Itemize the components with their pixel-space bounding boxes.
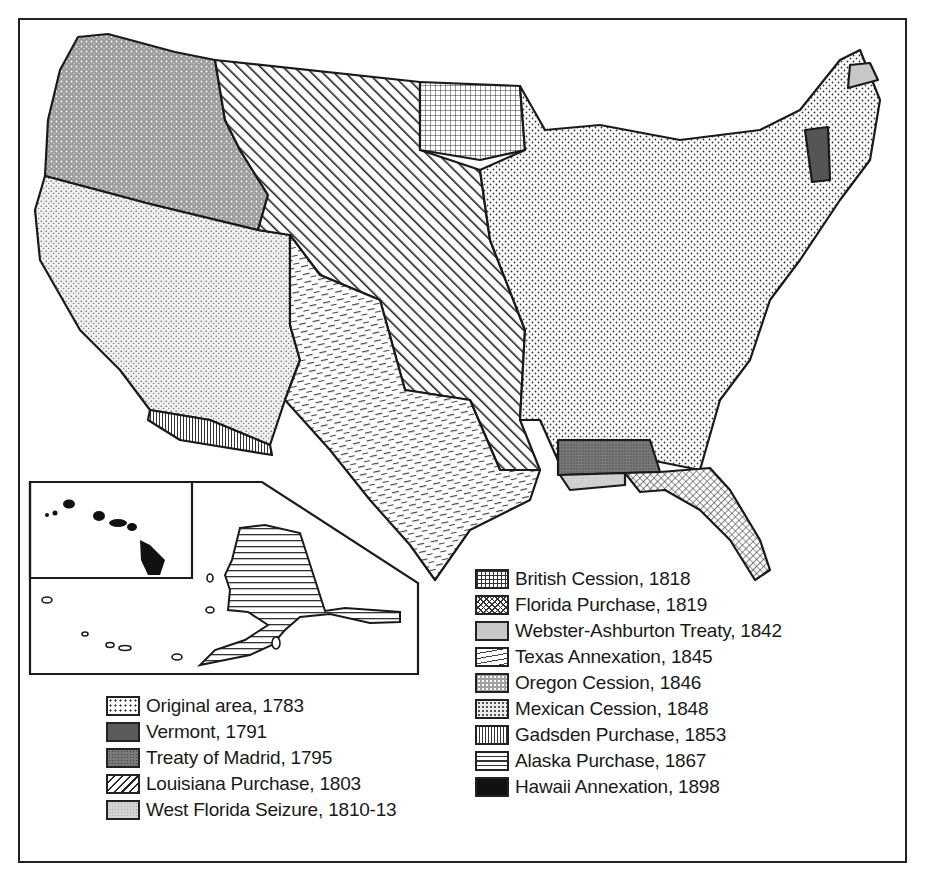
legend-item-treaty-of-madrid: Treaty of Madrid, 1795 xyxy=(106,745,396,771)
legend-item-alaska-purchase: Alaska Purchase, 1867 xyxy=(475,748,782,774)
legend-item-british-cession: British Cession, 1818 xyxy=(475,566,782,592)
hawaii-annexation-swatch-icon xyxy=(475,777,509,797)
vermont-swatch-icon xyxy=(106,722,140,742)
legend-left: Original area, 1783 Vermont, 1791 Treaty… xyxy=(106,693,396,823)
legend-item-florida-purchase: Florida Purchase, 1819 xyxy=(475,592,782,618)
louisiana-purchase-swatch-icon xyxy=(106,774,140,794)
british-cession-swatch-icon xyxy=(475,569,509,589)
alaska-purchase-swatch-icon xyxy=(475,751,509,771)
legend-item-webster-ashburton: Webster-Ashburton Treaty, 1842 xyxy=(475,618,782,644)
region-treaty-of-madrid xyxy=(558,440,660,475)
west-florida-seizure-swatch-icon xyxy=(106,800,140,820)
region-florida-purchase xyxy=(625,468,770,580)
legend-item-west-florida-seizure: West Florida Seizure, 1810-13 xyxy=(106,797,396,823)
legend-item-vermont: Vermont, 1791 xyxy=(106,719,396,745)
legend-right: British Cession, 1818 Florida Purchase, … xyxy=(475,566,782,800)
legend-item-mexican-cession: Mexican Cession, 1848 xyxy=(475,696,782,722)
legend-item-original-area: Original area, 1783 xyxy=(106,693,396,719)
region-original-area xyxy=(480,50,880,470)
florida-purchase-swatch-icon xyxy=(475,595,509,615)
gadsden-purchase-swatch-icon xyxy=(475,725,509,745)
legend-item-hawaii-annexation: Hawaii Annexation, 1898 xyxy=(475,774,782,800)
legend-item-oregon-cession: Oregon Cession, 1846 xyxy=(475,670,782,696)
webster-ashburton-swatch-icon xyxy=(475,621,509,641)
legend-item-texas-annexation: Texas Annexation, 1845 xyxy=(475,644,782,670)
region-west-florida-seizure xyxy=(560,473,625,490)
original-area-swatch-icon xyxy=(106,696,140,716)
texas-annexation-swatch-icon xyxy=(475,647,509,667)
mexican-cession-swatch-icon xyxy=(475,699,509,719)
legend-item-louisiana-purchase: Louisiana Purchase, 1803 xyxy=(106,771,396,797)
oregon-cession-swatch-icon xyxy=(475,673,509,693)
legend-item-gadsden-purchase: Gadsden Purchase, 1853 xyxy=(475,722,782,748)
treaty-of-madrid-swatch-icon xyxy=(106,748,140,768)
region-british-cession xyxy=(420,82,525,160)
